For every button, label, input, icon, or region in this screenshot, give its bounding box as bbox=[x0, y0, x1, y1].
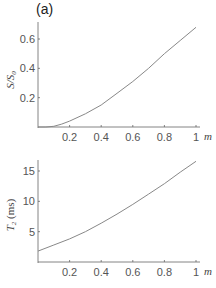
x-ticks: 0.20.40.60.81 bbox=[62, 125, 199, 143]
y-tick-label: 10 bbox=[23, 195, 35, 207]
svg-text:S/S0: S/S0 bbox=[4, 71, 18, 89]
x-ticks: 0.20.40.60.81 bbox=[62, 260, 199, 278]
data-line bbox=[38, 161, 196, 251]
chart-s-over-s0: 0.20.40.60.81 0.20.40.6 m S/S0 bbox=[4, 22, 212, 143]
y-tick-label: 0.4 bbox=[20, 62, 35, 74]
x-axis-label: m bbox=[204, 265, 212, 277]
y-tick-label: 15 bbox=[23, 165, 35, 177]
chart-t2: 0.20.40.60.81 51015 m T2 (ms) bbox=[4, 160, 212, 278]
x-tick-label: 0.4 bbox=[94, 131, 109, 143]
y-tick-label: 0.6 bbox=[20, 33, 35, 45]
x-tick-label: 0.6 bbox=[125, 266, 140, 278]
x-tick-label: 0.8 bbox=[157, 266, 172, 278]
x-tick-label: 1 bbox=[193, 131, 199, 143]
y-ticks: 51015 bbox=[23, 165, 40, 238]
x-tick-label: 0.2 bbox=[62, 131, 77, 143]
y-axis-label: S/S0 bbox=[4, 71, 18, 89]
y-axis-label: T2 (ms) bbox=[4, 198, 18, 231]
x-tick-label: 0.2 bbox=[62, 266, 77, 278]
x-tick-label: 0.8 bbox=[157, 131, 172, 143]
y-tick-label: 0.2 bbox=[20, 92, 35, 104]
y-ticks: 0.20.40.6 bbox=[20, 33, 40, 104]
x-tick-label: 0.6 bbox=[125, 131, 140, 143]
data-line bbox=[38, 27, 196, 127]
x-tick-label: 0.4 bbox=[94, 266, 109, 278]
x-tick-label: 1 bbox=[193, 266, 199, 278]
y-tick-label: 5 bbox=[29, 226, 35, 238]
svg-text:T2 (ms): T2 (ms) bbox=[4, 198, 18, 231]
x-axis-label: m bbox=[204, 130, 212, 142]
panel-label: (a) bbox=[36, 1, 53, 17]
figure: (a) 0.20.40.60.81 0.20.40.6 m S/S0 0.20.… bbox=[0, 0, 216, 288]
